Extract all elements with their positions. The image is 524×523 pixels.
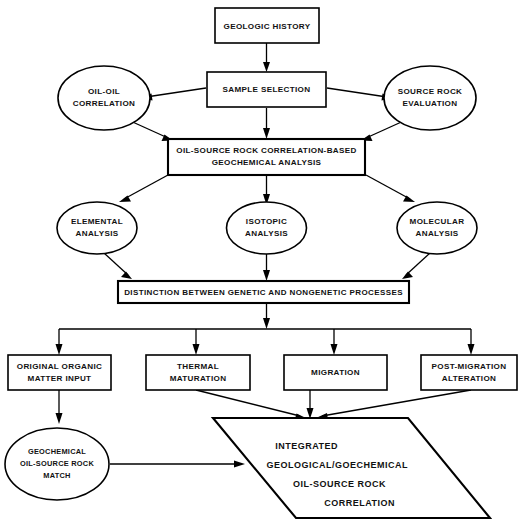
node-integrated-correlation-line-4: CORRELATION bbox=[324, 498, 395, 508]
node-oil-oil-correlation[interactable]: OIL-OIL CORRELATION bbox=[58, 66, 150, 130]
node-thermal-maturation-line-2: MATURATION bbox=[170, 374, 227, 383]
connector-geochemical-analysis-to-elemental-analysis bbox=[119, 175, 168, 202]
node-elemental-analysis[interactable]: ELEMENTAL ANALYSIS bbox=[57, 202, 137, 254]
connector-organic-matter-to-geochemical-match bbox=[56, 390, 63, 424]
node-sample-selection-label: SAMPLE SELECTION bbox=[223, 85, 311, 94]
node-post-migration-alteration[interactable]: POST-MIGRATION ALTERATION bbox=[421, 355, 517, 390]
node-migration[interactable]: MIGRATION bbox=[284, 355, 387, 390]
connector-elemental-analysis-to-distinction bbox=[104, 253, 132, 279]
connector-distinction-to-distribution-bus bbox=[263, 303, 270, 329]
node-molecular-analysis-line-1: MOLECULAR bbox=[410, 217, 465, 226]
node-elemental-analysis-line-2: ANALYSIS bbox=[76, 229, 119, 238]
node-source-rock-evaluation-line-1: SOURCE ROCK bbox=[398, 87, 463, 96]
node-source-rock-evaluation-line-2: EVALUATION bbox=[403, 99, 458, 108]
node-integrated-correlation-line-2: GEOLOGICAL/GOECHEMICAL bbox=[267, 460, 409, 470]
connector-distribution-bus bbox=[56, 329, 475, 355]
connector-geochemical-match-to-integrated bbox=[110, 461, 245, 468]
node-geologic-history[interactable]: GEOLOGIC HISTORY bbox=[215, 8, 319, 43]
node-isotopic-analysis[interactable]: ISOTOPIC ANALYSIS bbox=[227, 202, 307, 254]
flowchart-canvas: GEOLOGIC HISTORY SAMPLE SELECTION OIL-OI… bbox=[0, 0, 524, 523]
node-oil-oil-correlation-line-1: OIL-OIL bbox=[88, 87, 120, 96]
node-post-migration-alteration-line-1: POST-MIGRATION bbox=[432, 362, 507, 371]
node-geochemical-analysis-line-2: GEOCHEMICAL ANALYSIS bbox=[212, 158, 322, 167]
connector-molecular-analysis-to-distinction bbox=[402, 253, 430, 279]
node-geologic-history-label: GEOLOGIC HISTORY bbox=[224, 22, 311, 31]
node-geochemical-match-line-2: OIL-SOURCE ROCK bbox=[20, 459, 94, 468]
node-integrated-correlation-line-1: INTEGRATED bbox=[275, 441, 338, 451]
connector-geochemical-analysis-to-molecular-analysis bbox=[366, 175, 415, 202]
node-molecular-analysis-line-2: ANALYSIS bbox=[416, 229, 459, 238]
node-original-organic-matter-input-line-1: ORIGINAL ORGANIC bbox=[17, 362, 103, 371]
node-molecular-analysis[interactable]: MOLECULAR ANALYSIS bbox=[397, 202, 477, 254]
node-geochemical-match[interactable]: GEOCHEMICAL OIL-SOURCE ROCK MATCH bbox=[5, 428, 109, 500]
connector-geochemical-analysis-to-isotopic-analysis bbox=[263, 175, 270, 205]
connector-migration-to-integrated bbox=[307, 390, 314, 419]
node-distinction-bar-label: DISTINCTION BETWEEN GENETIC AND NONGENET… bbox=[124, 288, 403, 297]
node-distinction-bar[interactable]: DISTINCTION BETWEEN GENETIC AND NONGENET… bbox=[118, 281, 409, 303]
node-oil-oil-correlation-line-2: CORRELATION bbox=[73, 99, 136, 108]
connector-thermal-maturation-to-integrated bbox=[196, 390, 306, 421]
connector-post-migration-to-integrated bbox=[316, 390, 471, 420]
node-thermal-maturation-line-1: THERMAL bbox=[177, 362, 219, 371]
node-isotopic-analysis-line-2: ANALYSIS bbox=[245, 229, 288, 238]
connector-sample-selection-to-geochemical-analysis bbox=[263, 108, 270, 139]
connector-isotopic-analysis-to-distinction bbox=[263, 253, 270, 281]
node-migration-label: MIGRATION bbox=[311, 368, 360, 377]
node-geochemical-analysis[interactable]: OIL-SOURCE ROCK CORRELATION-BASED GEOCHE… bbox=[168, 139, 365, 175]
node-post-migration-alteration-line-2: ALTERATION bbox=[442, 374, 496, 383]
node-elemental-analysis-line-1: ELEMENTAL bbox=[71, 217, 123, 226]
node-geochemical-match-line-1: GEOCHEMICAL bbox=[28, 447, 86, 456]
flowchart-diagram: GEOLOGIC HISTORY SAMPLE SELECTION OIL-OI… bbox=[0, 0, 524, 523]
connector-geologic-history-to-sample-selection bbox=[263, 42, 270, 72]
node-source-rock-evaluation[interactable]: SOURCE ROCK EVALUATION bbox=[384, 66, 476, 130]
node-original-organic-matter-input-line-2: MATTER INPUT bbox=[28, 374, 92, 383]
node-geochemical-analysis-line-1: OIL-SOURCE ROCK CORRELATION-BASED bbox=[176, 146, 356, 155]
node-integrated-correlation[interactable]: INTEGRATED GEOLOGICAL/GOECHEMICAL OIL-SO… bbox=[213, 418, 490, 518]
node-isotopic-analysis-line-1: ISOTOPIC bbox=[246, 217, 287, 226]
node-geochemical-match-line-3: MATCH bbox=[43, 471, 70, 480]
node-sample-selection[interactable]: SAMPLE SELECTION bbox=[207, 72, 326, 107]
connector-sample-selection-to-source-rock-evaluation bbox=[327, 88, 392, 101]
node-integrated-correlation-line-3: OIL-SOURCE ROCK bbox=[293, 479, 386, 489]
node-thermal-maturation[interactable]: THERMAL MATURATION bbox=[146, 355, 250, 390]
node-original-organic-matter-input[interactable]: ORIGINAL ORGANIC MATTER INPUT bbox=[8, 355, 111, 390]
